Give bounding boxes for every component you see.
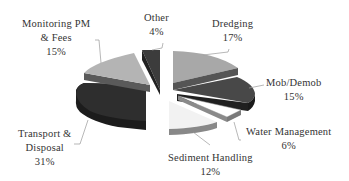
label-sediment-handling: Sediment Handling 12% [168, 151, 253, 179]
label-pct: 4% [144, 25, 169, 39]
label-line1: Monitoring PM [22, 17, 90, 31]
label-transport-disposal: Transport & Disposal 31% [18, 127, 71, 169]
label-pct: 6% [246, 139, 331, 153]
label-line2: & Fees [22, 31, 90, 45]
label-pct: 17% [212, 31, 253, 45]
label-water-management: Water Management 6% [246, 125, 331, 153]
label-pct: 15% [266, 90, 321, 104]
label-line1: Transport & [18, 127, 71, 141]
label-dredging: Dredging 17% [212, 17, 253, 45]
label-pct: 15% [22, 45, 90, 59]
label-pct: 31% [18, 155, 71, 169]
label-line1: Dredging [212, 17, 253, 31]
label-line1: Mob/Demob [266, 76, 321, 90]
label-line1: Other [144, 11, 169, 25]
slice-transport-disposal [76, 83, 146, 130]
label-monitoring-pm-fees: Monitoring PM & Fees 15% [22, 17, 90, 59]
label-line1: Water Management [246, 125, 331, 139]
label-pct: 12% [168, 165, 253, 179]
label-other: Other 4% [144, 11, 169, 39]
label-line2: Disposal [18, 141, 71, 155]
label-line1: Sediment Handling [168, 151, 253, 165]
label-mob-demob: Mob/Demob 15% [266, 76, 321, 104]
